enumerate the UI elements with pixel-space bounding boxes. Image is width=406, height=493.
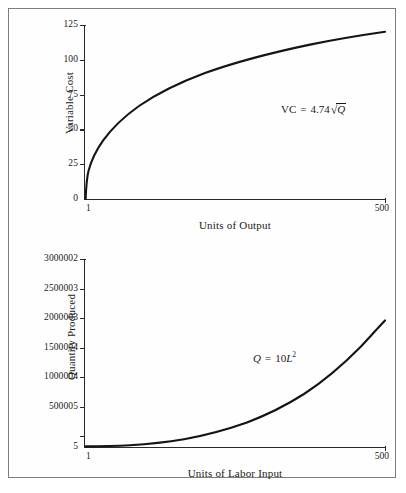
- plot-area-quantity-produced: 3000002 2500003 2000003 1500004 1000004 …: [84, 259, 385, 448]
- y-tick-label: 125: [63, 20, 78, 30]
- equation-operator: =: [300, 103, 306, 115]
- curve-quantity-produced: [85, 259, 385, 447]
- chart-panel-quantity-produced: 3000002 2500003 2000003 1500004 1000004 …: [9, 243, 397, 477]
- x-tick-label-right: 500: [375, 452, 389, 462]
- square-root-group: √Q: [330, 103, 347, 116]
- x-axis-title-units-of-labor-input: Units of Labor Input: [85, 467, 385, 479]
- x-tick-label-right: 500: [375, 204, 389, 214]
- x-axis-title-units-of-output: Units of Output: [85, 219, 385, 231]
- x-tick-label-left: 1: [86, 204, 91, 214]
- plot-area-variable-cost: 125 100 75 50 25 0: [84, 25, 385, 200]
- curve-path-quantity-produced: [86, 320, 385, 446]
- equation-exponent: 2: [292, 350, 296, 359]
- figure-frame: 125 100 75 50 25 0: [8, 8, 396, 478]
- equation-coefficient: 10: [275, 352, 286, 364]
- x-tick-label-left: 1: [86, 452, 91, 462]
- equation-label-quantity-produced: Q=10L2: [253, 351, 296, 364]
- equation-coefficient: 4.74: [311, 103, 330, 115]
- equation-lhs: Q: [253, 352, 261, 364]
- equation-label-variable-cost: VC=4.74√Q: [281, 103, 346, 116]
- y-axis-title-quantity-produced: Quantity Produced: [65, 257, 77, 417]
- chart-panel-variable-cost: 125 100 75 50 25 0: [9, 11, 397, 239]
- y-axis-title-variable-cost: Variable Cost: [63, 43, 75, 163]
- y-tick-label: 5: [73, 442, 78, 452]
- y-tick-label: 0: [73, 194, 78, 204]
- equation-operator: =: [265, 352, 271, 364]
- equation-lhs: VC: [281, 103, 296, 115]
- equation-radicand: Q: [336, 103, 346, 115]
